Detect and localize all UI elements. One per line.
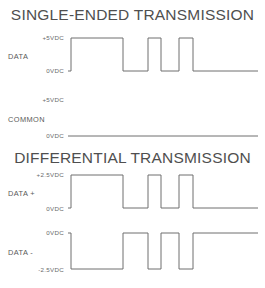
data-minus-waveform-trace: [0, 0, 265, 288]
transmission-waveform-diagram: SINGLE-ENDED TRANSMISSION +5VDC DATA 0VD…: [0, 0, 265, 288]
